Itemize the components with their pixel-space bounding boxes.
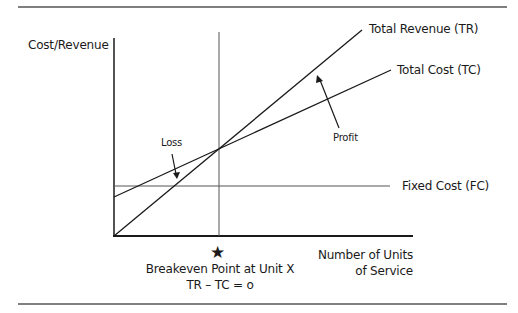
- profit-annotation: Profit: [333, 132, 358, 144]
- breakeven-label-line1: Breakeven Point at Unit X: [145, 262, 295, 276]
- breakeven-label: Breakeven Point at Unit X TR – TC = o: [145, 262, 295, 292]
- breakeven-star-icon: ★: [210, 243, 225, 261]
- profit-arrowhead-icon: [316, 75, 323, 83]
- breakeven-equation: TR – TC = o: [145, 278, 295, 292]
- loss-annotation: Loss: [161, 137, 182, 149]
- total-revenue-line: [114, 30, 362, 236]
- legend-total-cost: Total Cost (TC): [397, 63, 481, 77]
- loss-arrow: [172, 154, 176, 174]
- x-axis-label: Number of Units of Service: [300, 248, 413, 278]
- x-axis-label-line2: of Service: [300, 264, 413, 278]
- y-axis-label: Cost/Revenue: [28, 38, 109, 52]
- loss-arrowhead-icon: [173, 172, 180, 179]
- x-axis-label-line1: Number of Units: [300, 248, 413, 262]
- legend-total-revenue: Total Revenue (TR): [369, 22, 478, 36]
- profit-arrow: [320, 80, 339, 128]
- legend-fixed-cost: Fixed Cost (FC): [402, 179, 489, 193]
